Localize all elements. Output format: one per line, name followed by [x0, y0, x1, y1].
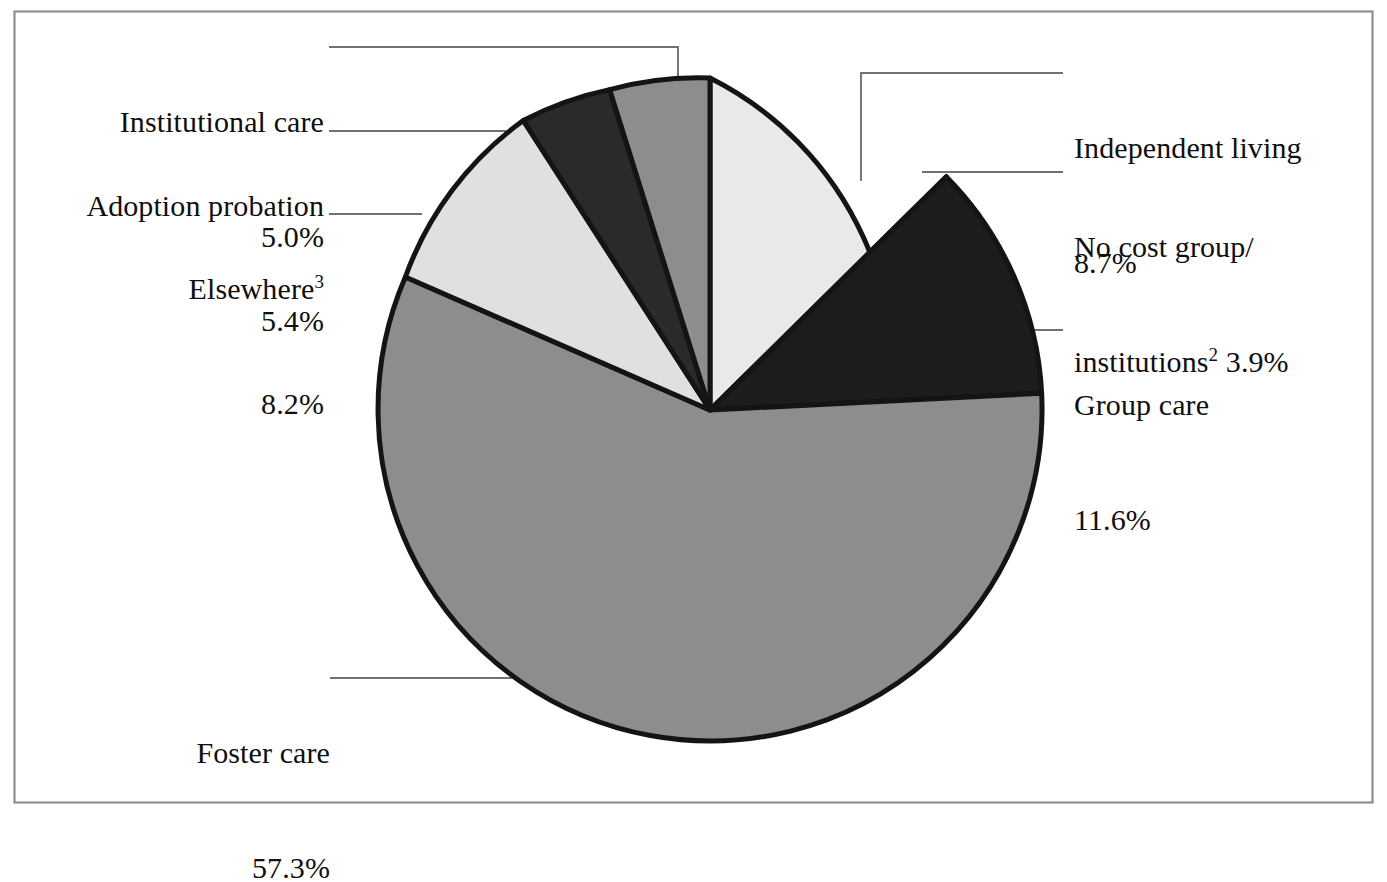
label-foster-care-value: 57.3%: [196, 849, 330, 882]
label-group-care-name: Group care: [1074, 386, 1209, 424]
label-elsewhere-footnote: 3: [314, 271, 324, 292]
pie-slices: [378, 78, 1042, 741]
label-elsewhere-text: Elsewhere: [189, 272, 315, 305]
label-no-cost-group-value-sep: [1218, 345, 1226, 378]
label-elsewhere-name: Elsewhere3: [189, 270, 324, 308]
label-group-care-value: 11.6%: [1074, 501, 1209, 539]
label-elsewhere: Elsewhere3 8.2%: [189, 193, 324, 500]
leader-line-independent-living: [861, 73, 1063, 181]
label-no-cost-group-value: 3.9%: [1226, 345, 1289, 378]
label-no-cost-group-footnote: 2: [1209, 344, 1219, 365]
label-foster-care: Foster care 57.3%: [196, 657, 330, 882]
label-group-care: Group care 11.6%: [1074, 309, 1209, 616]
label-foster-care-name: Foster care: [196, 734, 330, 772]
label-elsewhere-value: 8.2%: [189, 385, 324, 423]
label-no-cost-group-name-line1: No cost group/: [1074, 228, 1289, 266]
